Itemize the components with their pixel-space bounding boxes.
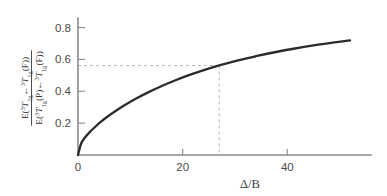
x-axis-title: Δ/B	[240, 177, 260, 191]
y-tick-label: 0.8	[55, 22, 71, 34]
x-tick-label: 20	[176, 161, 189, 173]
y-tick-label: 0.6	[55, 53, 71, 65]
y-tick-label: 0.2	[55, 117, 71, 129]
x-tick-label: 40	[281, 161, 294, 173]
chart-canvas: 0.20.40.60.8 02040 Δ/B E(3T2g←3T1g(F)) E…	[0, 0, 387, 196]
x-tick-label: 0	[75, 161, 81, 173]
y-tick-label: 0.4	[55, 85, 72, 97]
x-axis-title-group: Δ/B	[240, 177, 260, 191]
chart-figure: 0.20.40.60.8 02040 Δ/B E(3T2g←3T1g(F)) E…	[0, 0, 387, 196]
